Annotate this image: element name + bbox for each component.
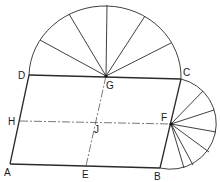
label-c: C xyxy=(183,67,190,78)
point-g xyxy=(104,74,107,77)
point-f xyxy=(169,122,172,125)
label-h: H xyxy=(8,116,15,127)
right-semicircle xyxy=(160,79,216,169)
geometry-diagram: D C G H J F A E B xyxy=(0,0,220,182)
top-semicircle xyxy=(29,5,181,79)
center-lines xyxy=(20,76,171,166)
label-e: E xyxy=(82,169,89,180)
label-j: J xyxy=(94,124,99,135)
label-g: G xyxy=(106,80,114,91)
label-a: A xyxy=(4,167,11,178)
label-b: B xyxy=(154,171,161,182)
label-f: F xyxy=(161,112,167,123)
label-d: D xyxy=(18,70,25,81)
